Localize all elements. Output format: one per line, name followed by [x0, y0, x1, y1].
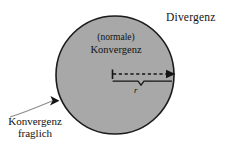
- leader-line-konvergenz-fraglich: [10, 96, 60, 117]
- label-normal-convergence-line1: (normale): [80, 32, 152, 43]
- convergence-divergence-diagram: Divergenz (normale) Konvergenz Konvergen…: [0, 0, 226, 153]
- label-divergenz: Divergenz: [166, 11, 216, 24]
- label-normal-convergence-line2: Konvergenz: [80, 44, 152, 56]
- label-convergence-questionable: Konvergenz fraglich: [2, 115, 68, 139]
- label-convergence-questionable-line2: fraglich: [2, 127, 68, 140]
- label-radius: r: [134, 85, 138, 95]
- label-normal-convergence: (normale) Konvergenz: [80, 32, 152, 56]
- label-convergence-questionable-line1: Konvergenz: [2, 115, 68, 128]
